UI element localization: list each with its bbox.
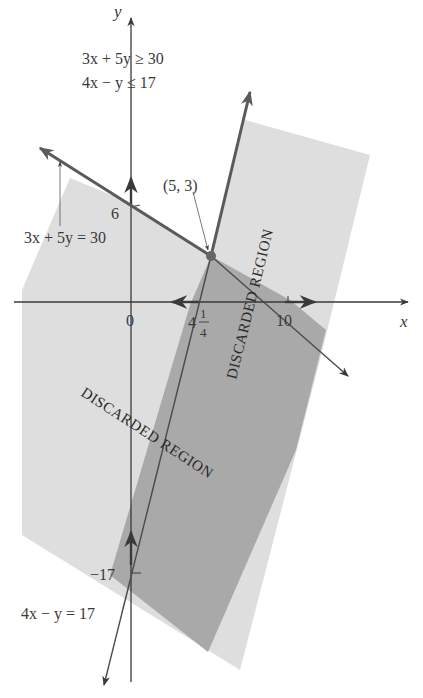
tick-label-x-int-den: 4: [200, 325, 207, 340]
vertex-label: (5, 3): [163, 177, 198, 195]
system-inequality-2: 4x − y ≤ 17: [82, 74, 156, 92]
linear-inequalities-graph: y x 3x + 5y ≥ 30 4x − y ≤ 17 3x + 5y = 3…: [0, 0, 423, 698]
x-axis-label: x: [399, 312, 408, 331]
tick-label-y-neg17: −17: [90, 566, 115, 583]
line2-label: 4x − y = 17: [21, 605, 95, 623]
line1-label: 3x + 5y = 30: [24, 229, 106, 247]
tick-label-y6: 6: [111, 205, 119, 222]
vertex-point: [206, 251, 216, 261]
y-axis-label: y: [112, 2, 122, 21]
tick-label-x10: 10: [276, 312, 292, 329]
tick-label-x-int-num: 1: [200, 306, 207, 321]
point-label-pointer: [193, 192, 208, 250]
tick-label-x-int-whole: 4: [188, 314, 196, 331]
system-inequality-1: 3x + 5y ≥ 30: [82, 50, 164, 68]
tick-label-origin: 0: [126, 312, 134, 329]
